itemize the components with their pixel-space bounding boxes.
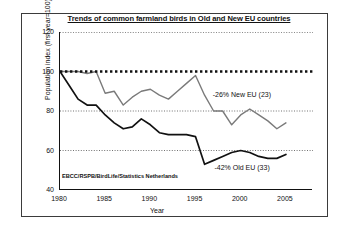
y-axis-title: Population index (first year=100) xyxy=(44,0,51,130)
x-tick-label-1990: 1990 xyxy=(134,195,164,202)
y-tick-label-40: 40 xyxy=(32,186,54,193)
figure-page: Trends of common farmland birds in Old a… xyxy=(0,0,349,236)
source-credit: EBCC/RSPB/BirdLife/Statistics Netherland… xyxy=(62,173,178,179)
x-tick-label-1995: 1995 xyxy=(180,195,210,202)
x-tick-label-1980: 1980 xyxy=(44,195,74,202)
series-line-new-eu xyxy=(60,72,286,129)
x-axis-title: Year xyxy=(150,207,164,214)
x-tick-label-2005: 2005 xyxy=(270,195,300,202)
new-eu-annotation: -26% New EU (23) xyxy=(213,91,271,98)
plot-svg xyxy=(60,32,313,190)
x-tick-label-2000: 2000 xyxy=(225,195,255,202)
old-eu-annotation: -42% Old EU (33) xyxy=(214,164,269,171)
plot-area xyxy=(59,32,312,190)
gridlines-group xyxy=(60,32,313,151)
chart-title: Trends of common farmland birds in Old a… xyxy=(44,14,314,23)
x-tick-label-1985: 1985 xyxy=(89,195,119,202)
y-tick-label-60: 60 xyxy=(32,147,54,154)
